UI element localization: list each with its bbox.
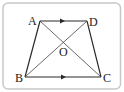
label-C: C (103, 71, 111, 85)
label-O: O (59, 45, 68, 59)
trapezoid-diagram: A D B C O (0, 0, 124, 92)
label-B: B (15, 71, 23, 85)
label-A: A (28, 14, 37, 28)
label-D: D (89, 15, 98, 29)
